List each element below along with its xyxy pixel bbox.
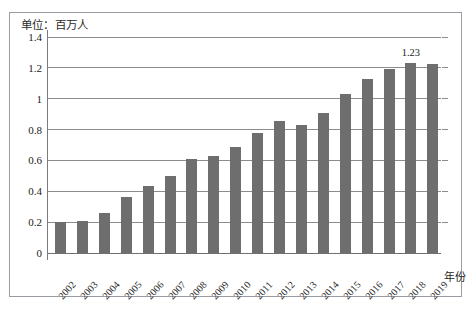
gridline-0.4 [48,191,441,192]
y-tick-label: 0.4 [2,185,42,197]
right-axis-tick [442,191,448,192]
y-tick-label: 1.2 [2,62,42,74]
bar-chart-figure: 单位：百万人 00.20.40.60.811.21.42002200320042… [0,0,474,309]
gridline-1.2 [48,67,441,68]
bar-2016 [362,79,373,253]
gridline-0.8 [48,129,441,130]
plot-area: 00.20.40.60.811.21.420022003200420052006… [48,37,441,253]
gridline-1.4 [48,37,441,38]
x-axis-title: 年份 [444,268,466,284]
right-axis-tick [442,37,448,38]
bar-2009 [208,156,219,253]
bar-2017 [384,69,395,253]
y-tick-label: 0.8 [2,124,42,136]
y-tick-label: 1 [2,93,42,105]
y-tick-label: 0.6 [2,154,42,166]
y-tick-label: 1.4 [2,31,42,43]
bar-2018 [405,63,416,253]
bar-2010 [230,147,241,253]
bar-2015 [340,94,351,253]
bar-2003 [77,221,88,253]
gridline-0.6 [48,160,441,161]
bar-2008 [186,159,197,253]
unit-axis-note: 单位：百万人 [21,16,88,32]
right-axis-tick [442,129,448,130]
bar-2019 [427,64,438,253]
y-tick-label: 0 [2,247,42,259]
bar-2002 [55,222,66,253]
right-axis-tick [442,98,448,99]
bar-2011 [252,133,263,253]
bar-2007 [165,176,176,253]
bar-2014 [318,113,329,253]
bar-2005 [121,197,132,253]
right-axis-tick [442,160,448,161]
bar-2004 [99,213,110,253]
gridline-1 [48,98,441,99]
right-axis-tick [442,67,448,68]
y-tick-label: 0.2 [2,216,42,228]
bar-value-label: 1.23 [402,47,420,58]
bar-2012 [274,121,285,253]
bar-2013 [296,125,307,253]
bar-2006 [143,186,154,253]
right-axis-tick [442,222,448,223]
